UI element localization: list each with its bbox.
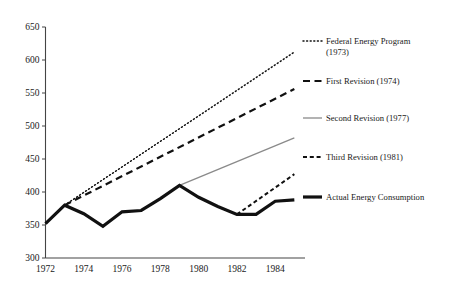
- legend-label: Actual Energy Consumption: [326, 192, 425, 202]
- x-tick-label: 1984: [266, 264, 285, 274]
- y-tick-label: 400: [25, 187, 40, 197]
- energy-forecast-chart: 300350400450500550600650 197219741976197…: [0, 0, 456, 292]
- legend-label: Second Revision (1977): [326, 113, 409, 123]
- series-lines: [46, 52, 295, 226]
- y-tick-label: 650: [25, 22, 40, 32]
- legend-label-continued: (1973): [326, 47, 349, 57]
- series-line-2: [179, 138, 294, 186]
- x-axis: 1972197419761978198019821984: [36, 258, 305, 274]
- chart-canvas: 300350400450500550600650 197219741976197…: [0, 0, 456, 292]
- series-line-0: [65, 52, 295, 205]
- y-tick-label: 300: [25, 253, 40, 263]
- y-axis: 300350400450500550600650: [25, 22, 45, 263]
- legend-label: Third Revision (1981): [326, 152, 403, 162]
- series-line-1: [65, 89, 295, 205]
- y-tick-label: 350: [25, 220, 40, 230]
- y-tick-label: 550: [25, 88, 40, 98]
- x-tick-label: 1972: [36, 264, 55, 274]
- x-tick-label: 1982: [227, 264, 246, 274]
- y-tick-label: 500: [25, 121, 40, 131]
- y-tick-label: 600: [25, 55, 40, 65]
- x-tick-label: 1980: [189, 264, 208, 274]
- chart-legend: Federal Energy Program(1973)First Revisi…: [303, 36, 425, 202]
- legend-label: First Revision (1974): [326, 76, 400, 86]
- legend-label: Federal Energy Program: [326, 36, 411, 46]
- y-tick-label: 450: [25, 154, 40, 164]
- series-line-4: [46, 185, 295, 226]
- x-tick-label: 1974: [74, 264, 93, 274]
- x-tick-label: 1976: [113, 264, 132, 274]
- x-tick-label: 1978: [151, 264, 170, 274]
